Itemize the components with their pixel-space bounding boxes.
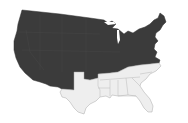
us-map <box>0 0 188 123</box>
map-canvas <box>0 0 188 123</box>
